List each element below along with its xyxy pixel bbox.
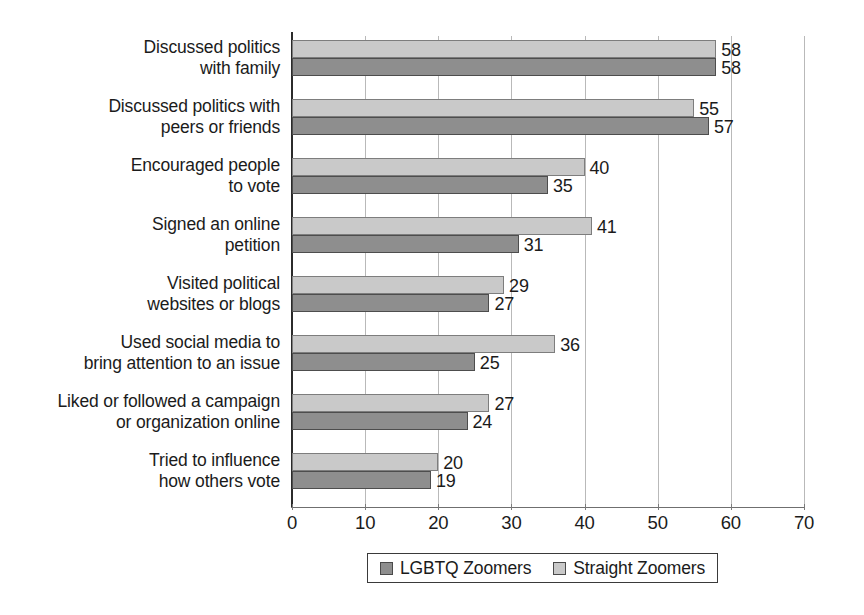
bar-lgbtq-zoomers — [292, 412, 468, 430]
tick-label: 10 — [355, 512, 375, 534]
bar-lgbtq-zoomers — [292, 471, 431, 489]
bar-lgbtq-zoomers — [292, 117, 709, 135]
bar-straight-zoomers — [292, 99, 694, 117]
bar-value-label: 27 — [494, 395, 514, 413]
tick-mark — [438, 504, 439, 510]
tick-mark — [585, 504, 586, 510]
category-label: Visited political websites or blogs — [147, 273, 280, 315]
tick-label: 70 — [794, 512, 814, 534]
legend-swatch-icon — [553, 562, 566, 575]
tick-label: 60 — [721, 512, 741, 534]
category-label: Discussed politics with family — [144, 37, 280, 79]
bar-lgbtq-zoomers — [292, 235, 519, 253]
tick-label: 30 — [501, 512, 521, 534]
category-label: Used social media to bring attention to … — [84, 332, 280, 374]
category-label: Discussed politics with peers or friends — [108, 96, 280, 138]
tick-label: 40 — [574, 512, 594, 534]
category-label: Signed an online petition — [152, 214, 280, 256]
bar-value-label: 24 — [473, 413, 493, 431]
bar-value-label: 55 — [699, 100, 719, 118]
tick-mark — [511, 504, 512, 510]
legend-label: Straight Zoomers — [573, 558, 705, 578]
tick-label: 50 — [648, 512, 668, 534]
bar-value-label: 19 — [436, 472, 456, 490]
bar-straight-zoomers — [292, 394, 489, 412]
bar-lgbtq-zoomers — [292, 58, 716, 76]
legend-label: LGBTQ Zoomers — [400, 558, 531, 578]
tick-label: 0 — [287, 512, 297, 534]
tick-mark — [365, 504, 366, 510]
bar-straight-zoomers — [292, 40, 716, 58]
bar-value-label: 35 — [553, 177, 573, 195]
gridline — [804, 36, 805, 508]
legend-item[interactable]: Straight Zoomers — [553, 558, 705, 578]
value-axis-ticks: 010203040506070 — [292, 512, 804, 540]
bar-value-label: 36 — [560, 336, 580, 354]
bar-value-label: 27 — [494, 295, 514, 313]
category-label: Tried to influence how others vote — [149, 450, 280, 492]
plot-area: 58585557403541312927362527242019 — [292, 36, 804, 508]
bar-straight-zoomers — [292, 158, 585, 176]
category-axis-line — [291, 507, 804, 508]
bar-chart: Discussed politics with familyDiscussed … — [0, 0, 864, 615]
bar-lgbtq-zoomers — [292, 294, 489, 312]
category-label: Encouraged people to vote — [131, 155, 280, 197]
tick-mark — [658, 504, 659, 510]
bar-value-label: 31 — [524, 236, 544, 254]
tick-mark — [292, 504, 293, 510]
bar-value-label: 40 — [590, 159, 610, 177]
bar-lgbtq-zoomers — [292, 176, 548, 194]
bar-straight-zoomers — [292, 217, 592, 235]
bar-value-label: 57 — [714, 118, 734, 136]
bar-straight-zoomers — [292, 335, 555, 353]
category-label: Liked or followed a campaign or organiza… — [58, 391, 280, 433]
bar-straight-zoomers — [292, 453, 438, 471]
bar-lgbtq-zoomers — [292, 353, 475, 371]
bar-value-label: 58 — [721, 59, 741, 77]
bar-value-label: 20 — [443, 454, 463, 472]
tick-mark — [804, 504, 805, 510]
bar-straight-zoomers — [292, 276, 504, 294]
bar-value-label: 29 — [509, 277, 529, 295]
gridline — [731, 36, 732, 508]
chart-legend: LGBTQ ZoomersStraight Zoomers — [367, 553, 718, 583]
legend-swatch-icon — [380, 562, 393, 575]
bar-value-label: 25 — [480, 354, 500, 372]
tick-mark — [731, 504, 732, 510]
bar-value-label: 58 — [721, 41, 741, 59]
tick-label: 20 — [428, 512, 448, 534]
legend-item[interactable]: LGBTQ Zoomers — [380, 558, 531, 578]
bar-value-label: 41 — [597, 218, 617, 236]
category-axis-labels: Discussed politics with familyDiscussed … — [0, 0, 286, 500]
